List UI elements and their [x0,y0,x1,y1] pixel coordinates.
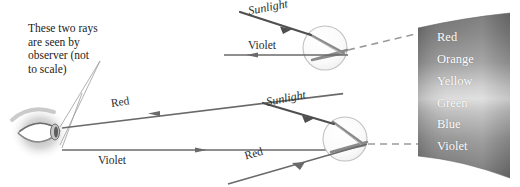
rainbow-diagram: These two rays are seen by observer (not… [0,0,520,187]
dashed-connector-upper [348,32,424,50]
spectrum-label-green: Green [437,96,468,111]
label-violet-upper: Violet [248,39,276,51]
upper-raindrop [303,26,347,70]
observer-annotation: These two rays are seen by observer (not… [28,22,148,76]
spectrum-label-orange: Orange [437,52,474,67]
spectrum-label-blue: Blue [437,117,461,132]
label-violet-observer-ray: Violet [98,154,126,166]
spectrum-label-yellow: Yellow [437,74,473,89]
violet-ray-to-observer [62,147,348,152]
spectrum-label-violet: Violet [437,139,468,154]
observer-eye [10,106,70,160]
spectrum-label-red: Red [437,30,457,45]
label-red-observer-ray: Red [110,94,130,108]
